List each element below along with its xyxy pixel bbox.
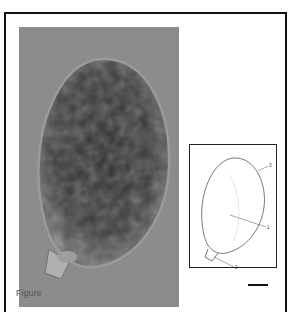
scale-bar (248, 284, 268, 286)
label-3: 3 (269, 163, 272, 168)
cell-outline-drawing: 3 1 2 (190, 145, 278, 269)
figure-caption: Figure (16, 288, 42, 298)
line-drawing-panel: 3 1 2 (189, 144, 277, 268)
label-1: 1 (267, 225, 270, 230)
label-2: 2 (235, 265, 238, 269)
cell-image (19, 27, 179, 307)
micrograph-photo (19, 27, 179, 307)
